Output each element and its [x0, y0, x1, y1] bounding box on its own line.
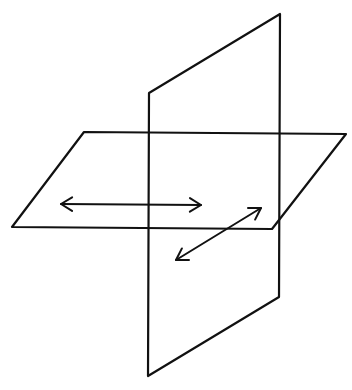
planes-diagram — [0, 0, 352, 390]
arrow-shaft — [61, 204, 201, 205]
diagram-canvas — [0, 0, 352, 390]
horizontal-double-arrow — [61, 197, 201, 211]
vertical-plane — [148, 14, 280, 376]
horizontal-plane — [12, 132, 346, 229]
arrow-shaft — [176, 208, 261, 260]
diagonal-double-arrow — [176, 208, 261, 260]
